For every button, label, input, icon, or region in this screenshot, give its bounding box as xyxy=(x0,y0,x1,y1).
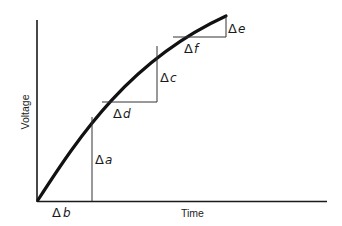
label-delta-a: Δa xyxy=(95,152,112,167)
label-delta-e: Δe xyxy=(228,21,245,36)
label-delta-b: Δb xyxy=(52,205,71,220)
voltage-time-diagram: Δa Δb Δd Δc Δf Δe Voltage Time xyxy=(0,0,342,226)
label-delta-c: Δc xyxy=(160,70,177,85)
y-axis-title: Voltage xyxy=(19,94,31,129)
label-delta-f: Δf xyxy=(184,41,200,56)
x-axis-title: Time xyxy=(181,207,204,219)
label-delta-d: Δd xyxy=(113,106,131,121)
